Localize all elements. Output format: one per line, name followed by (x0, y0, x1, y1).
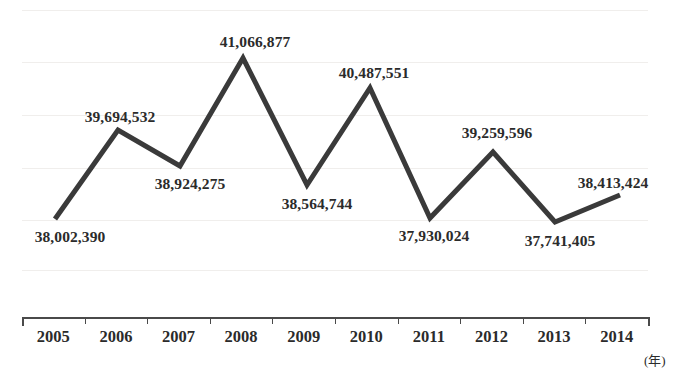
data-value-label-2010: 40,487,551 (339, 64, 410, 82)
data-value-label-2011: 37,930,024 (399, 227, 470, 245)
x-axis-tick-2 (147, 317, 148, 324)
x-axis-year-2007: 2007 (162, 327, 195, 347)
x-axis-unit-label: (年) (644, 350, 666, 369)
data-value-label-2006: 39,694,532 (85, 108, 156, 126)
x-axis-year-2008: 2008 (225, 327, 258, 347)
data-value-label-2009: 38,564,744 (282, 195, 353, 213)
chart-page: 38,002,39039,694,53238,924,27541,066,877… (0, 0, 695, 391)
x-axis-tick-9 (585, 317, 586, 324)
x-axis-year-2013: 2013 (538, 327, 571, 347)
data-value-label-2014: 38,413,424 (578, 174, 649, 192)
x-axis-year-2005: 2005 (37, 327, 70, 347)
x-axis-tick-7 (460, 317, 461, 324)
x-axis-tick-6 (398, 317, 399, 324)
x-axis-year-2012: 2012 (475, 327, 508, 347)
x-axis-year-2011: 2011 (413, 327, 445, 347)
data-value-label-2008: 41,066,877 (220, 33, 291, 51)
x-axis-tick-1 (85, 317, 86, 324)
data-value-label-2012: 39,259,596 (462, 124, 533, 142)
x-axis-year-2010: 2010 (350, 327, 383, 347)
data-value-label-2005: 38,002,390 (35, 228, 106, 246)
data-value-label-2007: 38,924,275 (155, 175, 226, 193)
x-axis-tick-5 (335, 317, 336, 324)
x-axis-tick-0 (22, 317, 24, 326)
x-axis-tick-10 (648, 317, 650, 326)
x-axis-tick-4 (272, 317, 273, 324)
x-axis-year-2009: 2009 (287, 327, 320, 347)
data-value-label-2013: 37,741,405 (525, 232, 596, 250)
x-axis-year-2006: 2006 (99, 327, 132, 347)
x-axis-tick-8 (523, 317, 524, 324)
x-axis-year-2014: 2014 (600, 327, 633, 347)
x-axis-tick-3 (210, 317, 211, 324)
